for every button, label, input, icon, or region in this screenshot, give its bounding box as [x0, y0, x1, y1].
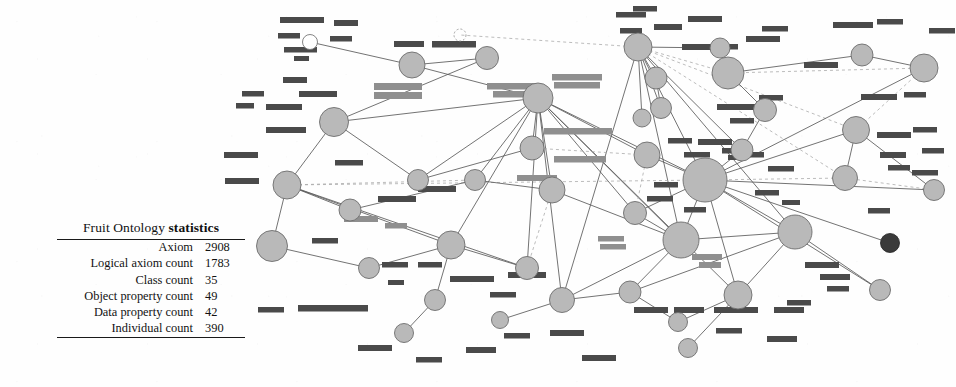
- graph-node-label-box: [904, 92, 926, 98]
- graph-node: [754, 99, 777, 122]
- graph-node-label-box: [388, 280, 404, 285]
- graph-node-label-box: [684, 207, 706, 213]
- graph-node-label-box: [224, 152, 258, 158]
- statistics-row: Object property count49: [57, 289, 245, 305]
- graph-node-label-box: [266, 127, 306, 133]
- statistics-table-body: Axiom2908Logical axiom count1783Class co…: [57, 240, 245, 337]
- graph-node-label-box: [880, 152, 906, 158]
- graph-node: [683, 158, 727, 202]
- graph-node-label-box: [929, 28, 955, 34]
- graph-node-label-box: [827, 286, 849, 292]
- graph-node-label-box: [544, 128, 612, 135]
- graph-edge: [538, 98, 647, 155]
- graph-node-label-box: [450, 276, 494, 282]
- ontology-graph-figure: [222, 0, 956, 387]
- graph-node-label-box: [804, 62, 838, 68]
- graph-node-label-box: [382, 262, 408, 268]
- graph-node-label-box: [312, 238, 338, 244]
- graph-node-label-box: [242, 91, 264, 97]
- graph-node-label-box: [682, 44, 712, 50]
- graph-node: [712, 57, 744, 89]
- statistics-row: Data property count42: [57, 305, 245, 321]
- graph-node: [910, 54, 938, 82]
- graph-node-label-box: [730, 118, 754, 124]
- graph-node-label-box: [258, 307, 284, 313]
- graph-node-label-box: [298, 305, 368, 312]
- graph-node-label-box: [418, 262, 442, 268]
- graph-node-label-box: [654, 182, 678, 188]
- graph-node: [339, 199, 361, 221]
- graph-node-label-box: [616, 12, 646, 18]
- graph-node: [624, 33, 652, 61]
- graph-node: [395, 324, 414, 343]
- graph-node-label-box: [280, 17, 324, 23]
- graph-node-label-box: [684, 152, 710, 158]
- graph-node: [476, 47, 499, 70]
- graph-node: [651, 98, 672, 119]
- graph-node-label-box: [861, 94, 897, 100]
- statistics-row-label: Class count: [57, 272, 205, 288]
- graph-edge: [460, 35, 638, 47]
- graph-node-label-box: [868, 208, 890, 214]
- graph-node-label-box: [598, 236, 624, 242]
- graph-node-label-box: [698, 139, 732, 145]
- graph-node: [843, 117, 870, 144]
- graph-node-label-box: [378, 196, 416, 202]
- graph-node-label-box: [647, 196, 673, 202]
- graph-node-label-box: [550, 330, 584, 336]
- statistics-row-value: 35: [205, 272, 245, 288]
- statistics-title-bold: statistics: [169, 220, 220, 235]
- graph-node-label-box: [717, 104, 755, 110]
- graph-edge: [728, 55, 862, 73]
- graph-node: [257, 231, 288, 262]
- graph-node-label-box: [466, 347, 496, 353]
- graph-edge: [638, 47, 856, 130]
- table-bottom-rule: [57, 337, 245, 338]
- graph-node-label-box: [278, 33, 300, 39]
- graph-node-label-box: [877, 132, 911, 138]
- statistics-row: Logical axiom count1783: [57, 256, 245, 272]
- graph-node-label-box: [782, 200, 800, 205]
- graph-node-label-box: [912, 170, 938, 176]
- graph-node-label-box: [374, 92, 422, 99]
- statistics-row-label: Axiom: [57, 240, 205, 256]
- graph-edge: [287, 185, 451, 245]
- graph-node: [924, 180, 945, 201]
- graph-node-label-box: [330, 36, 352, 42]
- statistics-row: Axiom2908: [57, 240, 245, 256]
- statistics-row-value: 2908: [205, 240, 245, 256]
- graph-edge-layer: [272, 35, 934, 348]
- graph-node-label-box: [633, 6, 657, 12]
- graph-node: [724, 281, 752, 309]
- graph-node-label-box: [554, 156, 606, 163]
- graph-node-label-box: [762, 26, 788, 32]
- graph-node: [851, 44, 873, 66]
- statistics-row-value: 390: [205, 321, 245, 337]
- graph-node-label-box: [913, 127, 937, 133]
- graph-node-label-box: [833, 22, 873, 28]
- graph-node-label-box: [490, 292, 516, 298]
- graph-node-label-box: [755, 190, 779, 196]
- graph-node-label-box: [299, 91, 337, 97]
- graph-node-label-box: [358, 345, 392, 351]
- statistics-row-value: 49: [205, 289, 245, 305]
- graph-node-label-box: [504, 333, 530, 339]
- statistics-row: Class count35: [57, 272, 245, 288]
- graph-node: [273, 171, 301, 199]
- graph-node: [731, 139, 753, 161]
- statistics-row-value: 1783: [205, 256, 245, 272]
- graph-node: [425, 290, 446, 311]
- graph-node: [399, 52, 425, 78]
- graph-node-label-box: [394, 41, 424, 47]
- graph-node-label-box: [552, 74, 602, 81]
- graph-node: [881, 234, 900, 253]
- graph-node-label-box: [334, 20, 358, 26]
- graph-node: [520, 136, 544, 160]
- graph-node-label-box: [634, 307, 668, 313]
- graph-node: [619, 281, 641, 303]
- graph-node-label-box: [787, 300, 811, 306]
- graph-node: [437, 231, 465, 259]
- graph-node-label-box: [716, 328, 742, 334]
- graph-node: [833, 166, 858, 191]
- graph-edge: [451, 98, 538, 245]
